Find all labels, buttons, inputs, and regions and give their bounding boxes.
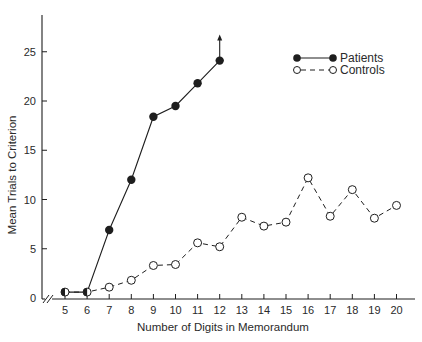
y-tick-label: 15 [24, 144, 36, 156]
legend-patients-marker [293, 54, 301, 62]
y-tick-label: 20 [24, 95, 36, 107]
x-tick-label: 10 [169, 304, 181, 316]
x-tick-label: 5 [62, 304, 68, 316]
x-tick-label: 17 [324, 304, 336, 316]
patients-point [216, 56, 224, 64]
patients-point [193, 79, 201, 87]
legend-patients-marker [329, 54, 337, 62]
x-tick-label: 9 [150, 304, 156, 316]
y-tick-label: 0 [30, 292, 36, 304]
legend: PatientsControls [293, 51, 384, 77]
patients-point [105, 226, 113, 234]
x-tick-label: 6 [84, 304, 90, 316]
x-tick-label: 14 [258, 304, 270, 316]
controls-point [348, 186, 356, 194]
controls-point [216, 243, 224, 251]
patients-line [65, 61, 220, 292]
controls-point [326, 212, 334, 220]
x-tick-label: 8 [128, 304, 134, 316]
x-tick-label: 13 [236, 304, 248, 316]
controls-point [172, 261, 180, 269]
legend-controls-marker [294, 67, 301, 74]
x-tick-label: 7 [106, 304, 112, 316]
controls-line [65, 178, 397, 292]
controls-point [127, 276, 135, 284]
legend-controls-label: Controls [340, 63, 385, 77]
patients-point [127, 176, 135, 184]
controls-point [370, 214, 378, 222]
y-tick-label: 10 [24, 194, 36, 206]
patients-arrow-head [217, 35, 222, 41]
x-tick-label: 16 [302, 304, 314, 316]
patients-point [171, 102, 179, 110]
x-tick-label: 15 [280, 304, 292, 316]
y-tick-label: 25 [24, 46, 36, 58]
x-tick-label: 19 [368, 304, 380, 316]
controls-point [393, 201, 401, 209]
controls-point [238, 213, 246, 221]
controls-point [194, 239, 202, 247]
controls-point [149, 261, 157, 269]
controls-point [282, 218, 290, 226]
patients-point [149, 113, 157, 121]
x-tick-label: 12 [214, 304, 226, 316]
x-tick-label: 18 [346, 304, 358, 316]
x-axis-title: Number of Digits in Memorandum [137, 321, 309, 333]
chart: 0510152025567891011121314151617181920 Pa… [0, 0, 422, 342]
x-tick-label: 20 [390, 304, 402, 316]
legend-controls-marker [330, 67, 337, 74]
y-axis-title: Mean Trials to Criterion [6, 116, 18, 235]
controls-point [260, 222, 268, 230]
x-tick-label: 11 [192, 304, 203, 316]
controls-point [105, 283, 113, 291]
y-tick-label: 5 [30, 243, 36, 255]
controls-point [304, 174, 312, 182]
